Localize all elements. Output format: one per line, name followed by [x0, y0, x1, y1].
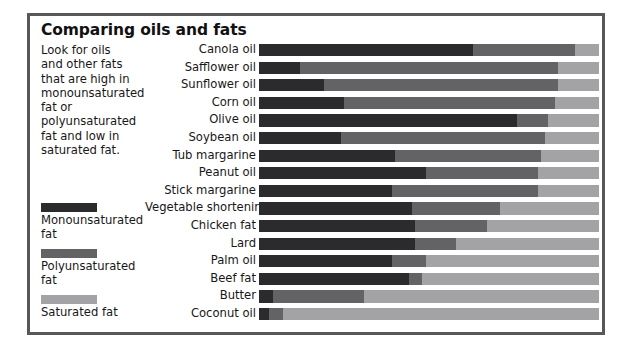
legend-swatch-monounsaturated-icon — [41, 203, 97, 212]
legend-label-polyunsaturated: Polyunsaturated fat — [41, 260, 145, 287]
bar-segment — [541, 150, 599, 162]
bar-track — [259, 255, 599, 267]
bar-segment — [259, 150, 395, 162]
bar-segment — [409, 273, 423, 285]
bar-category-label: Coconut oil — [145, 307, 256, 320]
bar-row: Stick margarine — [145, 184, 598, 202]
bar-category-label: Chicken fat — [145, 219, 256, 232]
bar-segment — [555, 97, 599, 109]
bar-segment — [412, 202, 500, 214]
plot-area: Canola oilSafflower oilSunflower oilCorn… — [145, 43, 598, 328]
bar-row: Corn oil — [145, 96, 598, 114]
bar-segment — [259, 273, 409, 285]
bar-track — [259, 220, 599, 232]
bar-segment — [517, 114, 548, 126]
bar-segment — [487, 220, 599, 232]
bar-row: Soybean oil — [145, 131, 598, 149]
bar-category-label: Safflower oil — [145, 61, 256, 74]
bar-row: Sunflower oil — [145, 78, 598, 96]
bar-segment — [426, 255, 599, 267]
bar-segment — [415, 238, 456, 250]
bar-row: Palm oil — [145, 254, 598, 272]
bar-segment — [456, 238, 599, 250]
bar-segment — [259, 290, 273, 302]
bar-segment — [575, 44, 599, 56]
bar-row: Chicken fat — [145, 219, 598, 237]
bar-segment — [538, 185, 599, 197]
bar-segment — [259, 114, 517, 126]
bar-row: Safflower oil — [145, 61, 598, 79]
bar-segment — [426, 167, 538, 179]
bar-row: Peanut oil — [145, 166, 598, 184]
legend-label-monounsaturated: Monounsaturated fat — [41, 214, 145, 241]
bar-track — [259, 150, 599, 162]
bar-row: Lard — [145, 237, 598, 255]
bar-track — [259, 273, 599, 285]
bar-segment — [259, 97, 344, 109]
bar-segment — [259, 185, 392, 197]
chart-frame: Comparing oils and fats Look for oils an… — [27, 13, 605, 335]
bar-track — [259, 238, 599, 250]
side-panel: Look for oils and other fats that are hi… — [41, 43, 145, 157]
bar-segment — [259, 202, 412, 214]
bar-segment — [558, 62, 599, 74]
bar-segment — [558, 79, 599, 91]
bar-category-label: Palm oil — [145, 254, 256, 267]
bar-category-label: Corn oil — [145, 96, 256, 109]
bar-segment — [548, 114, 599, 126]
bar-segment — [259, 62, 300, 74]
bar-category-label: Tub margarine — [145, 149, 256, 162]
bar-row: Olive oil — [145, 113, 598, 131]
bar-track — [259, 97, 599, 109]
bar-segment — [259, 167, 426, 179]
bar-row: Canola oil — [145, 43, 598, 61]
bar-row: Vegetable shortening — [145, 201, 598, 219]
bar-segment — [538, 167, 599, 179]
bar-row: Coconut oil — [145, 307, 598, 325]
bar-track — [259, 132, 599, 144]
bar-segment — [273, 290, 365, 302]
bar-segment — [324, 79, 559, 91]
bar-track — [259, 185, 599, 197]
bar-category-label: Vegetable shortening — [145, 201, 256, 214]
bar-track — [259, 308, 599, 320]
bar-segment — [500, 202, 599, 214]
bar-segment — [341, 132, 545, 144]
bar-category-label: Soybean oil — [145, 131, 256, 144]
page-title: Comparing oils and fats — [41, 21, 247, 39]
bar-segment — [392, 255, 426, 267]
bar-category-label: Canola oil — [145, 43, 256, 56]
bar-track — [259, 290, 599, 302]
bar-track — [259, 114, 599, 126]
bar-track — [259, 62, 599, 74]
intro-text: Look for oils and other fats that are hi… — [41, 43, 133, 157]
bar-track — [259, 79, 599, 91]
bar-row: Beef fat — [145, 272, 598, 290]
bar-segment — [283, 308, 599, 320]
bar-track — [259, 202, 599, 214]
legend-item-monounsaturated: Monounsaturated fat — [41, 203, 149, 241]
bar-row: Butter — [145, 289, 598, 307]
bar-category-label: Olive oil — [145, 113, 256, 126]
bar-row: Tub margarine — [145, 149, 598, 167]
bar-segment — [392, 185, 538, 197]
bar-segment — [259, 255, 392, 267]
bar-category-label: Lard — [145, 237, 256, 250]
bar-track — [259, 44, 599, 56]
bar-segment — [259, 308, 269, 320]
bar-category-label: Stick margarine — [145, 184, 256, 197]
bar-segment — [473, 44, 575, 56]
legend-swatch-saturated-icon — [41, 295, 97, 304]
legend-item-polyunsaturated: Polyunsaturated fat — [41, 249, 149, 287]
bar-segment — [415, 220, 486, 232]
bar-segment — [259, 238, 415, 250]
bar-segment — [259, 132, 341, 144]
legend-label-saturated: Saturated fat — [41, 306, 145, 320]
bar-segment — [269, 308, 283, 320]
bar-segment — [344, 97, 555, 109]
bar-segment — [422, 273, 599, 285]
bar-segment — [300, 62, 558, 74]
bar-segment — [395, 150, 541, 162]
bar-segment — [364, 290, 599, 302]
bar-track — [259, 167, 599, 179]
